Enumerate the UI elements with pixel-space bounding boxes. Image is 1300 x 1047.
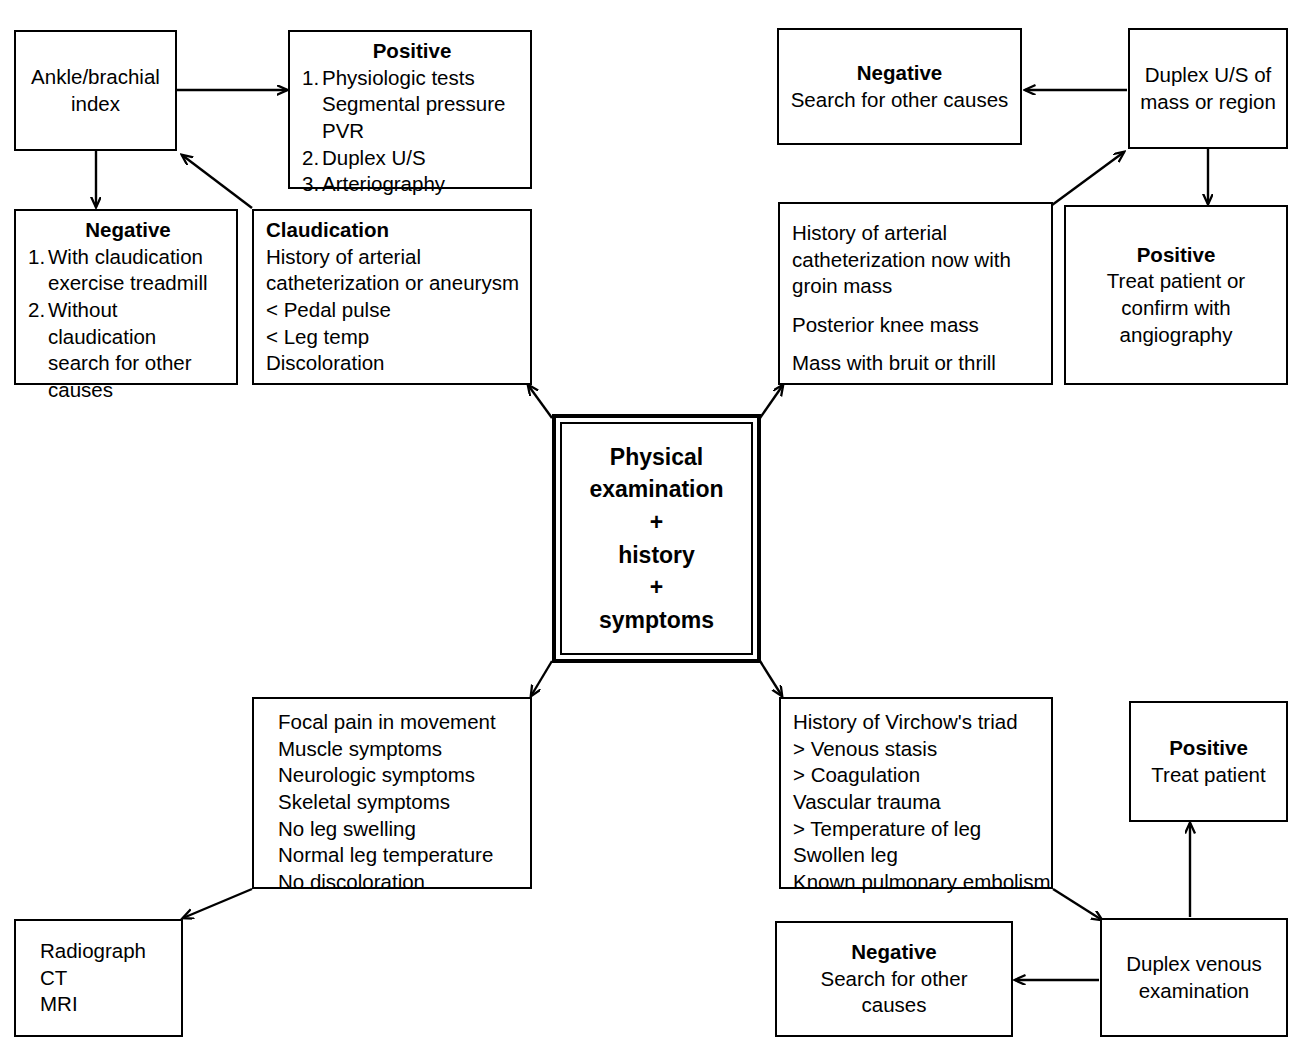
positive-angiography-line-1: Treat patient or xyxy=(1076,268,1276,295)
node-musculoskeletal-symptoms[interactable]: Focal pain in movement Muscle symptoms N… xyxy=(252,697,532,889)
center-inner-frame: Physical examination + history + symptom… xyxy=(560,422,753,655)
edge-center-to-arterial-history xyxy=(760,385,783,418)
positive-tests-item-1-text: Physiologic tests xyxy=(322,65,522,92)
ankle-brachial-line-2: index xyxy=(26,91,165,118)
arterial-cath-history-line-1: History of arterial xyxy=(792,220,1043,247)
node-negative-bottom-right[interactable]: Negative Search for other causes xyxy=(775,921,1013,1037)
musculoskeletal-line-4: Skeletal symptoms xyxy=(278,789,522,816)
claudication-line-3: < Pedal pulse xyxy=(266,297,522,324)
node-duplex-us-mass[interactable]: Duplex U/S of mass or region xyxy=(1128,28,1288,149)
positive-tests-item-2-number: 2. xyxy=(302,145,322,172)
edge-center-to-musculoskeletal xyxy=(531,661,552,696)
positive-tests-item-1-sub-1: Segmental pressure xyxy=(302,91,522,118)
positive-tests-item-3-number: 3. xyxy=(302,171,322,198)
duplex-us-mass-line-1: Duplex U/S of xyxy=(1140,62,1276,89)
arterial-cath-history-line-5: Mass with bruit or thrill xyxy=(792,350,1043,377)
arterial-cath-history-spacer-1 xyxy=(792,300,1043,312)
positive-angiography-title: Positive xyxy=(1076,242,1276,269)
edge-arterial-history-to-duplexmass xyxy=(1048,152,1124,208)
positive-tests-item-2: 2. Duplex U/S xyxy=(302,145,522,172)
edge-virchow-to-duplexvenous xyxy=(1053,889,1102,920)
positive-tests-list: 1. Physiologic tests Segmental pressure … xyxy=(302,65,522,198)
positive-tests-item-1: 1. Physiologic tests xyxy=(302,65,522,92)
negative-claudication-item-1-number: 1. xyxy=(28,244,48,271)
claudication-line-1: History of arterial xyxy=(266,244,522,271)
arterial-cath-history-line-3: groin mass xyxy=(792,273,1043,300)
musculoskeletal-line-7: No discoloration xyxy=(278,869,522,896)
arterial-cath-history-line-4: Posterior knee mass xyxy=(792,312,1043,339)
negative-bottom-right-line-1: Search for other xyxy=(787,966,1001,993)
musculoskeletal-line-6: Normal leg temperature xyxy=(278,842,522,869)
virchow-line-1: History of Virchow's triad xyxy=(793,709,1043,736)
claudication-line-2: catheterization or aneurysm xyxy=(266,270,522,297)
edge-claudication-to-ankle xyxy=(182,155,252,208)
claudication-line-4: < Leg temp xyxy=(266,324,522,351)
ankle-brachial-line-1: Ankle/brachial xyxy=(26,64,165,91)
claudication-title: Claudication xyxy=(266,217,522,244)
negative-claudication-item-1: 1. With claudication xyxy=(28,244,228,271)
negative-claudication-item-1-text: With claudication xyxy=(48,244,228,271)
center-plus-2: + xyxy=(650,571,663,604)
center-line-3: history xyxy=(618,539,695,572)
center-plus-1: + xyxy=(650,506,663,539)
negative-claudication-item-2-sub-1: search for other xyxy=(28,350,228,377)
radiograph-line-1: Radiograph xyxy=(40,938,173,965)
musculoskeletal-line-3: Neurologic symptoms xyxy=(278,762,522,789)
virchow-line-3: > Coagulation xyxy=(793,762,1043,789)
negative-claudication-item-2: 2. Without claudication xyxy=(28,297,228,350)
duplex-venous-line-2: examination xyxy=(1112,978,1276,1005)
negative-top-right-title: Negative xyxy=(789,60,1010,87)
negative-top-right-line-1: Search for other causes xyxy=(789,87,1010,114)
node-arterial-cath-history[interactable]: History of arterial catheterization now … xyxy=(778,202,1053,385)
negative-claudication-item-2-text: Without claudication xyxy=(48,297,228,350)
center-line-4: symptoms xyxy=(599,604,714,637)
positive-angiography-line-2: confirm with xyxy=(1076,295,1276,322)
musculoskeletal-line-1: Focal pain in movement xyxy=(278,709,522,736)
positive-angiography-line-3: angiography xyxy=(1076,322,1276,349)
negative-claudication-item-1-sub: exercise treadmill xyxy=(28,270,228,297)
virchow-line-7: Known pulmonary embolism xyxy=(793,869,1043,896)
positive-tests-title: Positive xyxy=(302,38,522,65)
positive-tests-item-3-text: Arteriography xyxy=(322,171,522,198)
arterial-cath-history-line-2: catheterization now with xyxy=(792,247,1043,274)
positive-treat-line-1: Treat patient xyxy=(1141,762,1276,789)
edge-center-to-virchow xyxy=(760,661,782,696)
positive-tests-item-1-sub-2: PVR xyxy=(302,118,522,145)
node-negative-claudication[interactable]: Negative 1. With claudication exercise t… xyxy=(14,209,238,385)
center-line-2: examination xyxy=(589,473,723,506)
node-virchow-triad[interactable]: History of Virchow's triad > Venous stas… xyxy=(779,697,1053,889)
virchow-line-4: Vascular trauma xyxy=(793,789,1043,816)
duplex-us-mass-line-2: mass or region xyxy=(1140,89,1276,116)
radiograph-line-2: CT xyxy=(40,965,173,992)
node-duplex-venous-examination[interactable]: Duplex venous examination xyxy=(1100,918,1288,1037)
node-claudication[interactable]: Claudication History of arterial cathete… xyxy=(252,209,532,385)
flowchart-canvas: Ankle/brachial index Positive 1. Physiol… xyxy=(0,0,1300,1047)
node-ankle-brachial-index[interactable]: Ankle/brachial index xyxy=(14,30,177,151)
node-negative-top-right[interactable]: Negative Search for other causes xyxy=(777,28,1022,145)
negative-claudication-item-2-sub-2: causes xyxy=(28,377,228,404)
node-positive-tests[interactable]: Positive 1. Physiologic tests Segmental … xyxy=(288,30,532,189)
negative-claudication-item-2-number: 2. xyxy=(28,297,48,350)
edge-center-to-claudication xyxy=(528,385,552,418)
negative-claudication-list: 1. With claudication exercise treadmill … xyxy=(28,244,228,404)
duplex-venous-line-1: Duplex venous xyxy=(1112,951,1276,978)
node-radiograph-ct-mri[interactable]: Radiograph CT MRI xyxy=(14,919,183,1037)
positive-tests-item-2-text: Duplex U/S xyxy=(322,145,522,172)
positive-tests-item-1-number: 1. xyxy=(302,65,322,92)
virchow-line-5: > Temperature of leg xyxy=(793,816,1043,843)
center-line-1: Physical xyxy=(610,441,703,474)
musculoskeletal-line-2: Muscle symptoms xyxy=(278,736,522,763)
negative-bottom-right-title: Negative xyxy=(787,939,1001,966)
node-physical-examination-center[interactable]: Physical examination + history + symptom… xyxy=(552,414,761,663)
node-positive-angiography[interactable]: Positive Treat patient or confirm with a… xyxy=(1064,205,1288,385)
virchow-line-2: > Venous stasis xyxy=(793,736,1043,763)
node-positive-treat-patient[interactable]: Positive Treat patient xyxy=(1129,701,1288,822)
claudication-line-5: Discoloration xyxy=(266,350,522,377)
negative-bottom-right-line-2: causes xyxy=(787,992,1001,1019)
arterial-cath-history-spacer-2 xyxy=(792,338,1043,350)
virchow-line-6: Swollen leg xyxy=(793,842,1043,869)
positive-tests-item-3: 3. Arteriography xyxy=(302,171,522,198)
negative-claudication-title: Negative xyxy=(28,217,228,244)
musculoskeletal-line-5: No leg swelling xyxy=(278,816,522,843)
edge-musculoskeletal-to-radiograph xyxy=(183,889,252,918)
